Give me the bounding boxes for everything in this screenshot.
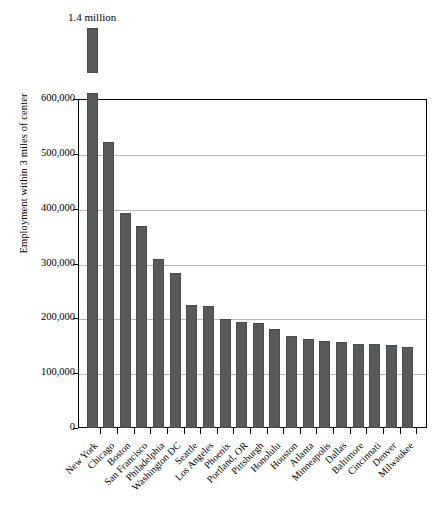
x-axis-tick-mark (366, 428, 367, 434)
bar (203, 306, 214, 428)
x-axis-tick-mark (300, 428, 301, 434)
y-axis-tick-label: 600,000 (5, 93, 75, 103)
x-axis-tick-mark (267, 428, 268, 434)
bar (236, 322, 247, 428)
y-axis-tick-label: 200,000 (5, 312, 75, 322)
x-axis-tick-mark (316, 428, 317, 434)
y-axis-tick-label: 400,000 (5, 203, 75, 213)
bar (386, 345, 397, 428)
x-axis-tick-mark (283, 428, 284, 434)
bar (136, 226, 147, 428)
x-axis-tick-mark (383, 428, 384, 434)
bar-chart: Employment within 3 miles of center 600,… (0, 0, 443, 507)
x-axis-tick-mark (400, 428, 401, 434)
y-axis-tick-label: 500,000 (5, 148, 75, 158)
bar (369, 344, 380, 428)
x-axis-tick-mark (134, 428, 135, 434)
x-axis-tick-mark (117, 428, 118, 434)
bar (170, 273, 181, 428)
y-axis-tick-label: 100,000 (5, 367, 75, 377)
x-axis-tick-mark (217, 428, 218, 434)
x-axis-tick-mark (184, 428, 185, 434)
bar (353, 344, 364, 428)
x-axis-tick-mark (333, 428, 334, 434)
x-axis-tick-mark (200, 428, 201, 434)
y-axis-tick-label: 300,000 (5, 258, 75, 268)
broken-axis-segment (87, 28, 98, 73)
bar (319, 341, 330, 428)
x-axis-tick-mark (233, 428, 234, 434)
bars-layer (78, 0, 427, 428)
bar (103, 142, 114, 428)
y-axis-tick-label: 0 (5, 422, 75, 432)
x-axis-tick-mark (350, 428, 351, 434)
bar (269, 329, 280, 428)
x-axis-tick-mark (167, 428, 168, 434)
x-axis-tick-mark (250, 428, 251, 434)
y-axis-tick-mark (73, 428, 78, 429)
bar (87, 93, 98, 428)
bar (402, 347, 413, 428)
x-axis-tick-mark (150, 428, 151, 434)
bar (153, 259, 164, 428)
bar (253, 323, 264, 428)
bar (336, 342, 347, 428)
bar (120, 213, 131, 428)
x-axis-tick-mark (416, 428, 417, 434)
bar (286, 336, 297, 428)
broken-axis-annotation: 1.4 million (32, 11, 152, 23)
x-axis-tick-mark (100, 428, 101, 434)
bar (186, 305, 197, 428)
bar (220, 319, 231, 428)
bar (303, 339, 314, 428)
